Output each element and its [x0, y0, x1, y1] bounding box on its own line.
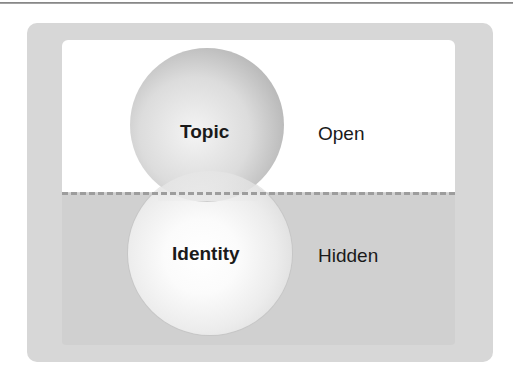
identity-label: Identity — [172, 243, 240, 265]
dashed-boundary-line — [62, 192, 455, 195]
hidden-region-label: Hidden — [318, 245, 378, 267]
topic-label: Topic — [180, 121, 229, 143]
top-rule-divider — [0, 2, 513, 4]
open-region-label: Open — [318, 123, 364, 145]
sphere-overlap-highlight — [158, 171, 258, 201]
diagram-canvas: Topic Open Identity Hidden — [0, 0, 513, 381]
